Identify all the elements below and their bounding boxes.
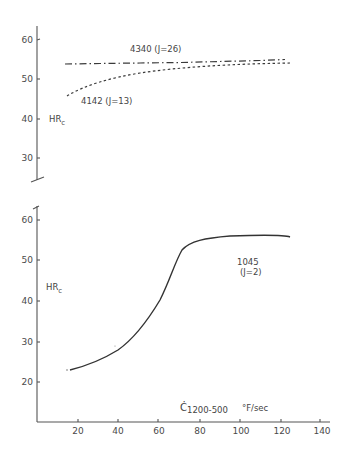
bottom-y-tick-label: 40 [22, 296, 34, 306]
top-y-tick-label: 30 [22, 153, 34, 163]
series-4340-line [65, 60, 285, 65]
bottom-x-tick-label: 60 [153, 426, 165, 436]
stray-dot [114, 345, 115, 346]
bottom-axis-break [33, 206, 39, 209]
top-y-axis-label: HRc [49, 114, 65, 127]
series-1045-label: 1045 [237, 257, 259, 267]
series-4142-line [67, 63, 290, 96]
bottom-x-tick-label: 80 [194, 426, 206, 436]
bottom-y-tick-label: 50 [22, 255, 34, 265]
bottom-x-tick-label: 120 [273, 426, 290, 436]
hardness-chart: 60 50 40 30 HRc 4340 (J=26) 4142 (J=13) … [0, 0, 348, 459]
bottom-y-tick-label: 20 [22, 377, 34, 387]
top-y-tick-label: 40 [22, 114, 34, 124]
bottom-y-tick-label: 30 [22, 337, 34, 347]
bottom-panel: 60 50 40 30 20 20 40 60 80 100 120 140 H… [22, 206, 331, 436]
bottom-y-axis-label: HRc [46, 282, 62, 295]
series-1045-label-j: (J=2) [240, 267, 262, 277]
bottom-x-tick-label: 20 [72, 426, 84, 436]
top-y-tick-label: 50 [22, 74, 34, 84]
bottom-x-tick-label: 140 [313, 426, 330, 436]
series-4340-label: 4340 (J=26) [130, 44, 181, 54]
bottom-x-tick-label: 40 [112, 426, 124, 436]
bottom-x-tick-label: 100 [232, 426, 249, 436]
series-1045-line [70, 235, 290, 370]
series-4142-label: 4142 (J=13) [81, 96, 132, 106]
top-panel: 60 50 40 30 HRc 4340 (J=26) 4142 (J=13) [22, 26, 290, 182]
top-y-tick-label: 60 [22, 35, 34, 45]
stray-dot [66, 369, 67, 370]
bottom-y-tick-label: 60 [22, 215, 34, 225]
x-axis-label: Ċ1200-500°F/sec [180, 401, 269, 415]
